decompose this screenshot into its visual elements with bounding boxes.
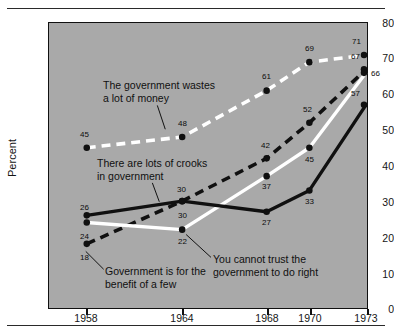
y-tick-label-50: 50: [368, 125, 394, 135]
leader-line-trust: [186, 235, 211, 258]
point-marker-benefit-1970: [306, 120, 313, 127]
y-tick-label-10: 10: [368, 269, 394, 279]
point-marker-wastes-1958: [83, 144, 90, 151]
y-axis-title: Percent: [6, 118, 18, 198]
plot-area: 45 48 61 69 71 18 30 42 52 67 24 22 37 4…: [48, 22, 368, 309]
point-label-crooks-1970: 33: [305, 198, 314, 206]
point-marker-trust-1958: [83, 219, 90, 226]
top-divider-rule: [7, 8, 385, 9]
point-marker-wastes-1970: [306, 59, 313, 66]
point-marker-crooks-1973: [361, 102, 368, 109]
x-tick-label-1958: 1958: [58, 312, 114, 324]
annotation-crooks: There are lots of crooks in government: [97, 157, 207, 182]
point-marker-wastes-1968: [263, 87, 270, 94]
point-marker-benefit-1958: [83, 241, 90, 248]
leader-line-wastes: [157, 105, 165, 129]
point-marker-trust-1973: [361, 70, 368, 77]
point-marker-wastes-1973: [361, 52, 368, 59]
bottom-divider-rule: [7, 325, 385, 326]
point-label-wastes-1968: 61: [262, 73, 271, 81]
annotation-wastes: The government wastes a lot of money: [103, 79, 215, 104]
point-label-trust-1964: 22: [178, 238, 187, 246]
y-tick-label-30: 30: [368, 197, 394, 207]
point-marker-crooks-1968: [263, 208, 270, 215]
y-tick-label-20: 20: [368, 233, 394, 243]
chart-figure: Percent 80 70 60 50 40 30 20 10 0 1958 1…: [0, 0, 394, 334]
point-label-trust-1968: 37: [262, 183, 271, 191]
x-tick-label-1964: 1964: [154, 312, 210, 324]
point-label-benefit-1968: 42: [261, 142, 270, 150]
point-label-benefit-1964: 30: [177, 186, 186, 194]
point-label-crooks-1968: 27: [262, 219, 271, 227]
leader-line-crooks: [152, 183, 159, 202]
point-label-trust-1970: 45: [305, 156, 314, 164]
y-tick-label-40: 40: [368, 161, 394, 171]
point-label-benefit-1973: 67: [351, 53, 360, 61]
point-marker-trust-1970: [306, 144, 313, 151]
point-marker-crooks-1958: [83, 212, 90, 219]
x-tick-label-1973: 1973: [338, 312, 394, 324]
point-label-wastes-1973: 71: [352, 38, 361, 46]
point-label-crooks-1973: 57: [351, 90, 360, 98]
y-tick-label-70: 70: [368, 53, 394, 63]
point-marker-crooks-1964: [179, 198, 186, 205]
y-tick-label-80: 80: [368, 18, 394, 28]
y-tick-label-60: 60: [368, 89, 394, 99]
point-marker-trust-1968: [263, 173, 270, 180]
point-label-wastes-1964: 48: [178, 120, 187, 128]
point-label-benefit-1958: 18: [80, 254, 89, 262]
annotation-trust: You cannot trust the government to do ri…: [213, 253, 318, 278]
x-tick-label-1970: 1970: [282, 312, 338, 324]
point-label-crooks-1964: 30: [178, 212, 187, 220]
point-marker-trust-1964: [179, 226, 186, 233]
point-label-wastes-1970: 69: [305, 45, 314, 53]
annotation-benefit: Government is for the benefit of a few: [105, 265, 206, 290]
point-marker-benefit-1968: [263, 155, 270, 162]
point-label-crooks-1958: 26: [80, 204, 89, 212]
point-label-trust-1973: 66: [371, 70, 380, 78]
point-label-trust-1958: 24: [80, 233, 89, 241]
point-marker-crooks-1970: [306, 187, 313, 194]
point-label-wastes-1958: 45: [80, 131, 89, 139]
point-label-benefit-1970: 52: [303, 106, 312, 114]
point-marker-wastes-1964: [179, 134, 186, 141]
